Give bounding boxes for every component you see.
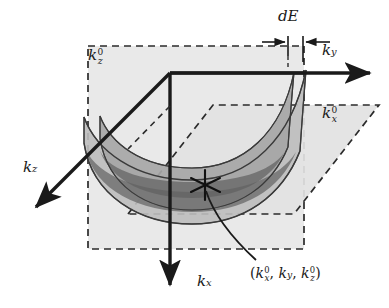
intersection-point-coordinates: (k0x, ky, k0z) <box>250 266 321 281</box>
k-x-axis-label: kx <box>197 274 212 289</box>
constant-kx-plane-label: k0x <box>322 106 337 122</box>
figure-canvas: dE ky kx kz k0z k0x (k0x, ky, k0z) <box>0 0 389 308</box>
k-y-axis-label: ky <box>322 43 337 58</box>
constant-kz-plane-label: k0z <box>88 48 103 64</box>
k-z-axis-label: kz <box>23 160 37 175</box>
energy-shell-thickness-label: dE <box>278 9 299 24</box>
